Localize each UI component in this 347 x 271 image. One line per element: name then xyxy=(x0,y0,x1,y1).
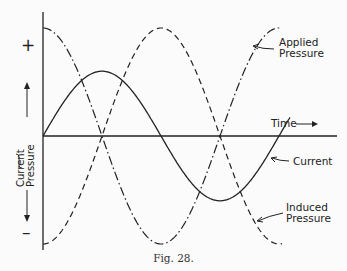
y-axis-label: Current Pressure xyxy=(16,144,36,187)
induced-pressure-label: Induced Pressure xyxy=(286,202,331,224)
minus-sign: – xyxy=(22,222,31,242)
current-label: Current xyxy=(293,156,332,167)
induced-label-line2: Pressure xyxy=(286,213,331,224)
time-arrow-icon xyxy=(312,121,318,127)
time-label: Time xyxy=(271,118,297,129)
applied-label-line2: Pressure xyxy=(279,48,324,59)
current-pointer-arrow xyxy=(272,158,289,161)
figure-caption: Fig. 28. xyxy=(0,252,347,264)
down-arrow-icon xyxy=(24,215,30,222)
figure-28: + – Current Pressure Time Applied Pressu… xyxy=(0,0,347,271)
plus-sign: + xyxy=(21,35,35,55)
applied-pressure-label: Applied Pressure xyxy=(279,37,324,59)
y-axis-label-pressure: Pressure xyxy=(26,144,36,187)
up-arrow-icon xyxy=(24,82,30,89)
